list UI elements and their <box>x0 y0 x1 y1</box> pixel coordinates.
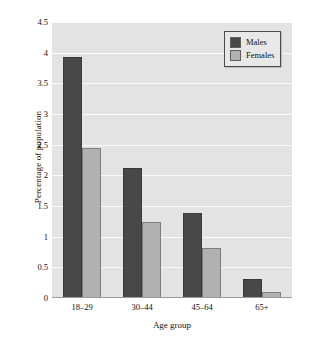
bar-females-2 <box>202 248 221 298</box>
legend-swatch-females-icon <box>230 50 241 61</box>
bar-males-2 <box>183 213 202 298</box>
gridline <box>52 83 292 84</box>
legend-label-males: Males <box>246 37 267 48</box>
legend-item-males: Males <box>230 36 274 49</box>
bar-females-1 <box>142 222 161 298</box>
bar-chart-figure: Percentage of population 00.511.522.533.… <box>0 0 312 349</box>
bar-males-0 <box>63 57 82 298</box>
y-axis-tick-label: 2 <box>22 171 48 179</box>
legend-label-females: Females <box>246 50 274 61</box>
x-axis-line <box>52 297 292 298</box>
y-axis-tick-label: 1.5 <box>22 202 48 210</box>
x-axis-tick-label: 30–44 <box>112 302 172 313</box>
y-axis-tick-label: 0.5 <box>22 263 48 271</box>
x-axis-tick-label: 65+ <box>232 302 292 313</box>
legend-item-females: Females <box>230 49 274 62</box>
bar-males-1 <box>123 168 142 298</box>
bar-females-0 <box>82 148 101 298</box>
chart-legend: Males Females <box>224 31 281 67</box>
y-axis-tick-label: 0 <box>22 294 48 302</box>
y-axis-tick-labels: 00.511.522.533.544.5 <box>22 22 48 298</box>
gridline <box>52 145 292 146</box>
gridline <box>52 22 292 23</box>
x-axis-tick-label: 18–29 <box>52 302 112 313</box>
bar-males-3 <box>243 279 262 298</box>
y-axis-tick-label: 4 <box>22 49 48 57</box>
x-axis-tick-labels: 18–2930–4445–6465+ <box>52 302 292 316</box>
y-axis-tick-label: 1 <box>22 233 48 241</box>
legend-swatch-males-icon <box>230 37 241 48</box>
y-axis-tick-label: 2.5 <box>22 141 48 149</box>
x-axis-title: Age group <box>52 320 292 330</box>
y-axis-tick-label: 3.5 <box>22 79 48 87</box>
y-axis-tick-label: 3 <box>22 110 48 118</box>
y-axis-tick-label: 4.5 <box>22 18 48 26</box>
x-axis-tick-label: 45–64 <box>172 302 232 313</box>
gridline <box>52 114 292 115</box>
